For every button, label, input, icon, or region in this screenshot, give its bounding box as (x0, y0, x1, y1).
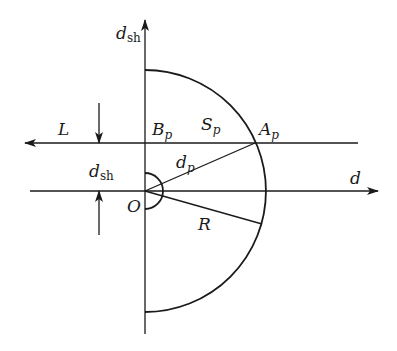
label-R: R (197, 214, 211, 234)
semicircle-diagram: dsh L Bp Sp Ap dp dsh O R d (0, 0, 397, 351)
label-dp: dp (176, 152, 195, 175)
label-origin: O (127, 196, 141, 216)
label-d-axis: d (350, 168, 361, 188)
label-dsh-gap: dsh (89, 161, 114, 183)
dp-line (145, 143, 255, 191)
label-Ap: Ap (257, 119, 279, 142)
label-Sp: Sp (201, 114, 221, 137)
label-dsh-axis: dsh (116, 23, 141, 45)
label-L: L (57, 119, 69, 139)
label-Bp: Bp (151, 119, 173, 142)
